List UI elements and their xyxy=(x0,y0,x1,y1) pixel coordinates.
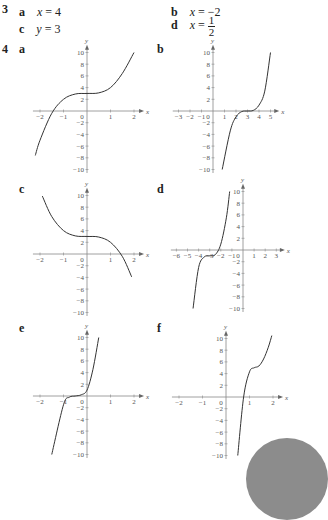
y-tick-label: 10 xyxy=(233,188,241,196)
x-tick-label: 1 xyxy=(109,256,113,264)
x-tick-label: −3 xyxy=(175,113,183,121)
y-tick-label: −4 xyxy=(77,274,85,282)
y-tick-label: 4 xyxy=(81,84,85,92)
y-tick-label: 8 xyxy=(81,204,85,212)
y-axis-arrow-icon xyxy=(211,45,215,50)
graph-a: xy−2−1012−10−8−6−4−2246810 xyxy=(33,37,150,174)
x-axis-arrow-icon xyxy=(139,394,144,398)
y-tick-label: −8 xyxy=(77,297,85,305)
x-axis-label: x xyxy=(145,108,150,116)
y-tick-label: −6 xyxy=(77,143,85,151)
graph-f: xy−2−1012−10−8−6−4−2246810 xyxy=(172,323,289,460)
x-axis-arrow-icon xyxy=(278,395,283,399)
y-tick-label: −2 xyxy=(216,405,224,413)
y-tick-label: 4 xyxy=(220,370,224,378)
x-axis-label: x xyxy=(286,247,291,255)
y-tick-label: 4 xyxy=(81,369,85,377)
x-axis-label: x xyxy=(280,108,285,116)
y-tick-label: −2 xyxy=(77,119,85,127)
y-tick-label: −10 xyxy=(199,166,210,174)
y-tick-label: 8 xyxy=(207,61,211,69)
y-tick-label: 4 xyxy=(207,84,211,92)
y-tick-label: −8 xyxy=(216,440,224,448)
x-tick-label: 1 xyxy=(248,399,252,407)
y-tick-label: −10 xyxy=(73,451,84,459)
x-axis-label: x xyxy=(145,251,150,259)
y-axis-label: y xyxy=(84,180,89,188)
x-tick-label: 2 xyxy=(132,256,136,264)
y-tick-label: 2 xyxy=(81,96,85,104)
y-tick-label: 10 xyxy=(77,334,85,342)
x-axis-arrow-icon xyxy=(274,109,279,113)
y-tick-label: 10 xyxy=(77,49,85,57)
x-tick-label: −1 xyxy=(199,399,207,407)
x-tick-label: 4 xyxy=(257,113,261,121)
y-tick-label: −10 xyxy=(229,305,240,313)
y-tick-label: 8 xyxy=(220,347,224,355)
y-tick-label: 4 xyxy=(237,223,241,231)
x-tick-label: −2 xyxy=(217,252,225,260)
y-axis-label: y xyxy=(240,176,245,184)
y-tick-label: 10 xyxy=(216,335,224,343)
curve xyxy=(35,53,134,156)
y-tick-label: −2 xyxy=(77,262,85,270)
y-tick-label: −2 xyxy=(203,119,211,127)
x-tick-label: −1 xyxy=(60,256,68,264)
curve xyxy=(238,336,272,456)
y-tick-label: −8 xyxy=(77,154,85,162)
decorative-circle xyxy=(246,438,328,520)
graph-c: xy−2−1012−10−8−6−4−2246810 xyxy=(33,180,150,317)
y-tick-label: 6 xyxy=(81,72,85,80)
y-tick-label: −10 xyxy=(212,452,223,460)
y-tick-label: −4 xyxy=(77,131,85,139)
y-tick-label: 6 xyxy=(81,215,85,223)
x-tick-label: 2 xyxy=(132,398,136,406)
y-tick-label: −8 xyxy=(77,439,85,447)
x-tick-label: 3 xyxy=(246,113,250,121)
x-axis-arrow-icon xyxy=(139,109,144,113)
y-axis-arrow-icon xyxy=(85,330,89,335)
y-tick-label: 2 xyxy=(81,381,85,389)
x-axis-label: x xyxy=(145,393,150,401)
x-tick-label: 2 xyxy=(132,113,136,121)
y-tick-label: −6 xyxy=(203,143,211,151)
x-tick-label: −2 xyxy=(36,256,44,264)
x-tick-label: −5 xyxy=(184,252,192,260)
x-tick-label: 2 xyxy=(263,252,267,260)
x-tick-label: −1 xyxy=(60,113,68,121)
graph-b: xy−3−2−1012345−10−8−6−4−2246810 xyxy=(173,37,286,174)
y-tick-label: 2 xyxy=(237,235,241,243)
y-tick-label: 6 xyxy=(220,358,224,366)
x-tick-label: 5 xyxy=(269,113,273,121)
y-tick-label: −2 xyxy=(233,258,241,266)
x-tick-label: 1 xyxy=(109,398,113,406)
x-tick-label: −4 xyxy=(195,252,203,260)
y-axis-arrow-icon xyxy=(85,188,89,193)
x-tick-label: −2 xyxy=(175,399,183,407)
y-tick-label: 4 xyxy=(81,227,85,235)
y-tick-label: −4 xyxy=(216,417,224,425)
y-tick-label: 6 xyxy=(237,211,241,219)
y-tick-label: −10 xyxy=(73,309,84,317)
y-tick-label: −4 xyxy=(77,416,85,424)
y-tick-label: −6 xyxy=(233,282,241,290)
x-axis-arrow-icon xyxy=(280,248,285,252)
x-tick-label: 1 xyxy=(252,252,256,260)
y-tick-label: −2 xyxy=(77,404,85,412)
x-axis-arrow-icon xyxy=(139,252,144,256)
y-tick-label: 8 xyxy=(81,61,85,69)
y-axis-label: y xyxy=(84,37,89,45)
y-tick-label: −6 xyxy=(77,286,85,294)
x-axis-label: x xyxy=(284,394,289,402)
y-axis-arrow-icon xyxy=(85,45,89,50)
x-tick-label: −2 xyxy=(186,113,194,121)
y-tick-label: −8 xyxy=(233,293,241,301)
y-tick-label: 6 xyxy=(81,357,85,365)
x-tick-label: 1 xyxy=(109,113,113,121)
y-tick-label: −10 xyxy=(73,166,84,174)
y-tick-label: 10 xyxy=(77,192,85,200)
x-tick-label: −6 xyxy=(173,252,181,260)
y-tick-label: −6 xyxy=(77,428,85,436)
x-tick-label: 2 xyxy=(271,399,275,407)
y-tick-label: 2 xyxy=(81,239,85,247)
